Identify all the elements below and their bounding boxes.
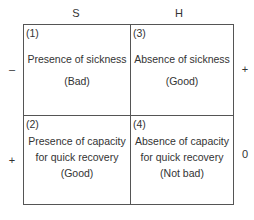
cell-2-text: Presence of capacity for quick recovery …: [24, 133, 130, 181]
cell-1-presence-of-sickness: (1) Presence of sickness (Bad): [24, 25, 130, 115]
cell-1-number: (1): [26, 27, 39, 39]
cell-3-text: Absence of sickness (Good): [131, 51, 233, 89]
cell-2-presence-of-capacity: (2) Presence of capacity for quick recov…: [24, 116, 130, 204]
row2-left-sign: +: [5, 154, 19, 166]
cell-4-number: (4): [133, 118, 146, 130]
row1-right-sign: +: [238, 63, 252, 75]
row1-left-sign: –: [5, 63, 19, 75]
cell-3-absence-of-sickness: (3) Absence of sickness (Good): [131, 25, 233, 115]
cell-4-absence-of-capacity: (4) Absence of capacity for quick recove…: [131, 116, 233, 204]
cell-1-text: Presence of sickness (Bad): [24, 51, 130, 89]
cell-2-line-1: Presence of capacity: [24, 133, 130, 149]
row2-right-sign: 0: [238, 148, 252, 160]
quadrant-grid: (1) Presence of sickness (Bad) (3) Absen…: [23, 24, 234, 205]
cell-1-line-1: Presence of sickness: [24, 51, 130, 67]
cell-2-number: (2): [26, 118, 39, 130]
cell-4-line-2: for quick recovery: [131, 149, 233, 165]
column-header-h: H: [169, 7, 189, 19]
cell-2-line-2: for quick recovery: [24, 149, 130, 165]
cell-4-line-1: Absence of capacity: [131, 133, 233, 149]
cell-2-evaluation: (Good): [24, 165, 130, 181]
column-header-s: S: [66, 7, 86, 19]
cell-3-evaluation: (Good): [131, 73, 233, 89]
cell-4-text: Absence of capacity for quick recovery (…: [131, 133, 233, 181]
cell-1-evaluation: (Bad): [24, 73, 130, 89]
cell-4-evaluation: (Not bad): [131, 165, 233, 181]
cell-3-number: (3): [133, 27, 146, 39]
cell-3-line-1: Absence of sickness: [131, 51, 233, 67]
